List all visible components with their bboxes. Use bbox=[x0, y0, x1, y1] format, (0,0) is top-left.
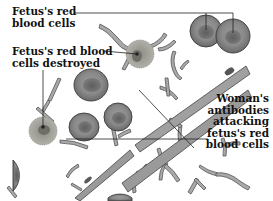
antibody-icon bbox=[171, 51, 182, 80]
fetal-rbc bbox=[74, 69, 108, 101]
antibody-icon bbox=[180, 60, 189, 70]
antibody-icon bbox=[164, 164, 180, 182]
antibody-icon bbox=[199, 165, 218, 176]
label-womans-antibodies: Woman's antibodies attacking fetus's red… bbox=[206, 93, 269, 151]
fetal-rbc-partial bbox=[13, 160, 20, 191]
label-line: cells destroyed bbox=[12, 58, 113, 70]
antibody-icon bbox=[150, 33, 167, 48]
antibody-icon bbox=[71, 183, 82, 191]
fetal-rbc-partial bbox=[108, 194, 132, 201]
label-fetus-rbc-destroyed: Fetus's red blood cells destroyed bbox=[12, 46, 113, 69]
label-line: blood cells bbox=[12, 18, 76, 30]
label-line: Woman's bbox=[206, 93, 269, 105]
label-line: Fetus's red bbox=[12, 6, 76, 18]
fetal-rbc bbox=[104, 103, 132, 131]
antibody-icon bbox=[66, 164, 79, 178]
antibody-icon bbox=[165, 78, 170, 96]
fetal-rbc bbox=[69, 113, 99, 141]
label-line: attacking bbox=[206, 116, 269, 128]
destroyed-rbc bbox=[126, 40, 154, 68]
rh-incompatibility-diagram: Fetus's red blood cells Fetus's red bloo… bbox=[0, 0, 273, 201]
antibody-icon bbox=[216, 173, 250, 190]
label-fetus-rbc: Fetus's red blood cells bbox=[12, 6, 76, 29]
label-line: Fetus's red blood bbox=[12, 46, 113, 58]
antibody-icon bbox=[48, 78, 61, 101]
label-line: blood cells bbox=[206, 139, 269, 151]
